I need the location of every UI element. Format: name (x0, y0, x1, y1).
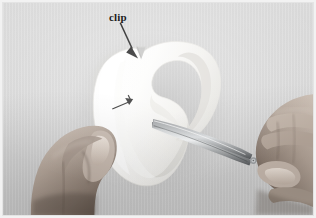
figure-container: clip (0, 0, 316, 218)
annotation-label-clip: clip (109, 12, 127, 23)
left-hand (31, 126, 117, 215)
photo-frame: clip (2, 2, 314, 216)
photo-artwork (3, 3, 313, 215)
right-hand (255, 94, 313, 215)
